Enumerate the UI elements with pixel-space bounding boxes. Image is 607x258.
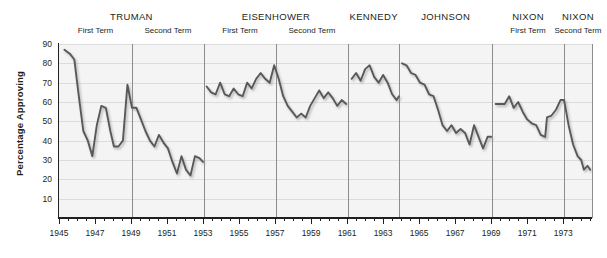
x-axis-minor-tick <box>212 218 213 221</box>
x-axis-minor-tick <box>248 218 249 221</box>
x-axis-minor-tick <box>473 218 474 221</box>
x-axis-minor-tick <box>158 218 159 221</box>
x-axis-major-tick <box>95 218 96 224</box>
x-axis-minor-tick <box>149 218 150 221</box>
series-line <box>352 65 399 100</box>
x-axis-minor-tick <box>581 218 582 221</box>
x-axis-minor-tick <box>77 218 78 221</box>
x-axis-major-tick <box>311 218 312 224</box>
x-axis-minor-tick <box>464 218 465 221</box>
series-line <box>496 96 564 137</box>
x-axis-tick-label: 1969 <box>471 228 511 238</box>
x-axis-tick-label: 1965 <box>399 228 439 238</box>
x-axis-major-tick <box>455 218 456 224</box>
x-axis-minor-tick <box>185 218 186 221</box>
x-axis-minor-tick <box>257 218 258 221</box>
x-axis-major-tick <box>239 218 240 224</box>
x-axis-tick-label: 1957 <box>255 228 295 238</box>
x-axis-major-tick <box>203 218 204 224</box>
approval-rating-chart: TRUMANFirst TermSecond TermEISENHOWERFir… <box>0 0 607 258</box>
x-axis-major-tick <box>383 218 384 224</box>
series-line <box>207 65 347 117</box>
x-axis-minor-tick <box>392 218 393 221</box>
x-axis-minor-tick <box>293 218 294 221</box>
x-axis-tick-label: 1963 <box>363 228 403 238</box>
x-axis-minor-tick <box>104 218 105 221</box>
x-axis-minor-tick <box>320 218 321 221</box>
x-axis-minor-tick <box>140 218 141 221</box>
term-label: Second Term <box>267 26 357 35</box>
x-axis-minor-tick <box>176 218 177 221</box>
x-axis-minor-tick <box>590 218 591 221</box>
x-axis-minor-tick <box>356 218 357 221</box>
x-axis-minor-tick <box>266 218 267 221</box>
x-axis-minor-tick <box>401 218 402 221</box>
y-axis-tick-label: 30 <box>30 155 52 165</box>
x-axis-minor-tick <box>500 218 501 221</box>
x-axis-minor-tick <box>410 218 411 221</box>
x-axis-minor-tick <box>329 218 330 221</box>
x-axis-minor-tick <box>374 218 375 221</box>
x-axis-tick-label: 1973 <box>543 228 583 238</box>
x-axis-minor-tick <box>509 218 510 221</box>
x-axis-tick-label: 1955 <box>219 228 259 238</box>
y-axis-tick-label: 90 <box>30 39 52 49</box>
x-axis-tick-label: 1959 <box>291 228 331 238</box>
y-axis-tick-label: 60 <box>30 97 52 107</box>
x-axis-major-tick <box>275 218 276 224</box>
x-axis-minor-tick <box>572 218 573 221</box>
x-axis-major-tick <box>419 218 420 224</box>
term-label: Second Term <box>533 26 607 35</box>
series-line <box>64 50 203 176</box>
x-axis-minor-tick <box>113 218 114 221</box>
series-line <box>564 100 590 170</box>
x-axis-tick-label: 1947 <box>75 228 115 238</box>
president-header-band: TRUMANFirst TermSecond TermEISENHOWERFir… <box>0 0 607 44</box>
x-axis-major-tick <box>347 218 348 224</box>
x-axis-minor-tick <box>221 218 222 221</box>
x-axis-major-tick <box>491 218 492 224</box>
x-axis-minor-tick <box>230 218 231 221</box>
y-axis-tick-label: 50 <box>30 116 52 126</box>
x-axis-minor-tick <box>554 218 555 221</box>
x-axis-major-tick <box>131 218 132 224</box>
y-axis-tick-label: 40 <box>30 136 52 146</box>
x-axis-major-tick <box>527 218 528 224</box>
x-axis-minor-tick <box>518 218 519 221</box>
x-axis-tick-label: 1967 <box>435 228 475 238</box>
x-axis-minor-tick <box>536 218 537 221</box>
x-axis-tick-label: 1945 <box>39 228 79 238</box>
president-name-label: NIXON <box>518 11 607 22</box>
y-axis-tick-label: 10 <box>30 194 52 204</box>
y-axis-tick-label: 20 <box>30 174 52 184</box>
term-divider <box>592 44 593 218</box>
x-axis-tick-label: 1951 <box>147 228 187 238</box>
y-axis-tick-label: 80 <box>30 58 52 68</box>
series-line <box>402 63 491 148</box>
x-axis-minor-tick <box>338 218 339 221</box>
x-axis-minor-tick <box>86 218 87 221</box>
x-axis-minor-tick <box>437 218 438 221</box>
x-axis-minor-tick <box>194 218 195 221</box>
x-axis-minor-tick <box>446 218 447 221</box>
x-axis-minor-tick <box>365 218 366 221</box>
x-axis-tick-label: 1949 <box>111 228 151 238</box>
x-axis-minor-tick <box>428 218 429 221</box>
x-axis-minor-tick <box>68 218 69 221</box>
x-axis-minor-tick <box>545 218 546 221</box>
x-axis-minor-tick <box>284 218 285 221</box>
y-axis-tick-label: 70 <box>30 78 52 88</box>
president-name-label: TRUMAN <box>71 11 191 22</box>
approval-line-series <box>59 44 592 218</box>
x-axis-major-tick <box>563 218 564 224</box>
x-axis-minor-tick <box>122 218 123 221</box>
y-axis-tick-labels: 102030405060708090 <box>28 0 52 258</box>
x-axis-major-tick <box>167 218 168 224</box>
y-axis-title: Percentage Approving <box>14 71 25 176</box>
x-axis-tick-label: 1953 <box>183 228 223 238</box>
x-axis-major-tick <box>59 218 60 224</box>
x-axis-tick-label: 1961 <box>327 228 367 238</box>
x-axis-minor-tick <box>482 218 483 221</box>
x-axis-minor-tick <box>302 218 303 221</box>
x-axis-tick-label: 1971 <box>507 228 547 238</box>
